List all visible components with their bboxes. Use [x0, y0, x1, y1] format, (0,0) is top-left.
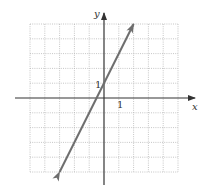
y-tick-label-1: 1	[95, 79, 101, 90]
x-tick-label-1: 1	[117, 99, 123, 110]
y-axis-label: y	[93, 8, 100, 19]
coordinate-plane: y x 1 1	[0, 0, 210, 192]
x-axis-label: x	[192, 101, 198, 112]
